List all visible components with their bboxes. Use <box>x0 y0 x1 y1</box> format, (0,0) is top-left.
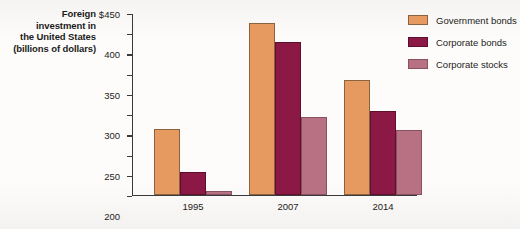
y-tick-mark: 400 <box>127 34 132 35</box>
y-tick-label: 300 <box>104 130 120 141</box>
y-tick-label: 250 <box>104 170 120 181</box>
y-tick-label: 350 <box>104 89 120 100</box>
x-axis-line <box>132 195 417 196</box>
legend-label: Corporate stocks <box>436 59 508 70</box>
bar-group: 1995 <box>154 13 232 195</box>
legend-swatch-icon <box>408 59 428 69</box>
legend-item: Government bonds <box>408 9 517 31</box>
y-axis-line <box>132 14 133 196</box>
chart-legend: Government bondsCorporate bondsCorporate… <box>408 9 517 75</box>
y-axis-title-line-1: Foreign <box>0 8 96 20</box>
legend-swatch-icon <box>408 37 428 47</box>
x-tick-label: 1995 <box>154 201 232 212</box>
legend-item: Corporate bonds <box>408 31 517 53</box>
y-tick-mark: 100 <box>127 156 132 157</box>
y-tick-mark: 50 <box>127 176 132 177</box>
y-tick-label: 400 <box>104 49 120 60</box>
bar <box>180 172 206 195</box>
bar <box>154 129 180 195</box>
bar <box>370 111 396 195</box>
legend-item: Corporate stocks <box>408 53 517 75</box>
y-tick-label: 200 <box>104 211 120 222</box>
legend-label: Corporate bonds <box>436 37 507 48</box>
y-tick-mark: 150 <box>127 135 132 136</box>
bar <box>275 42 301 195</box>
x-tick-label: 2007 <box>249 201 327 212</box>
y-tick-mark: 300 <box>127 75 132 76</box>
y-tick-mark: $450 <box>127 14 132 15</box>
bar-group: 2007 <box>249 13 327 195</box>
bar <box>249 23 275 195</box>
y-tick-mark: 250 <box>127 95 132 96</box>
bar <box>396 130 422 195</box>
y-axis-title-line-3: the United States <box>0 31 96 43</box>
x-tick-label: 2014 <box>344 201 422 212</box>
bar <box>301 117 327 195</box>
y-axis-title-line-4: (billions of dollars) <box>0 43 96 55</box>
y-tick-mark: 350 <box>127 54 132 55</box>
y-axis-title: Foreign investment in the United States … <box>0 8 96 54</box>
bar <box>344 80 370 194</box>
y-tick-mark: 200 <box>127 115 132 116</box>
plot-area: 050100150200250300350400$450 19952007201… <box>132 14 417 196</box>
y-axis-title-line-2: investment in <box>0 20 96 32</box>
legend-label: Government bonds <box>436 15 517 26</box>
y-tick-label: $450 <box>99 9 120 20</box>
y-tick-mark: 0 <box>127 196 132 197</box>
bar <box>206 191 232 195</box>
chart-canvas: Foreign investment in the United States … <box>0 0 520 229</box>
legend-swatch-icon <box>408 15 428 25</box>
